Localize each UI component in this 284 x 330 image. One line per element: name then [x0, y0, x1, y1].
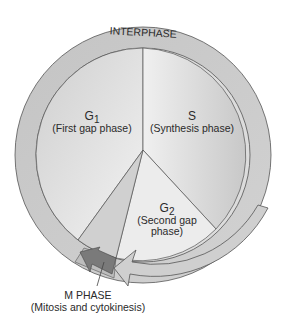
m-phase-name: M PHASE — [64, 289, 111, 301]
m-phase-description: (Mitosis and cytokinesis) — [31, 301, 145, 313]
s-description: (Synthesis phase) — [150, 122, 234, 134]
s-symbol: S — [188, 109, 196, 123]
g1-description: (First gap phase) — [52, 122, 131, 134]
cell-cycle-diagram: INTERPHASE G1 (First gap phase) S (Synth… — [0, 0, 284, 330]
g2-description-line2: phase) — [151, 225, 183, 237]
